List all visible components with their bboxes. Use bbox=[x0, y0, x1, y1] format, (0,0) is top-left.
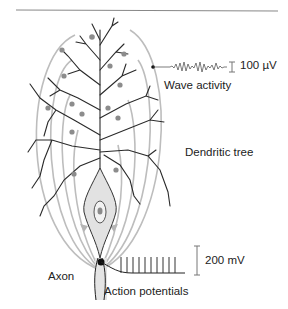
wave-scale-label: 100 µV bbox=[240, 59, 277, 71]
nucleolus bbox=[98, 208, 103, 215]
synapse-dots bbox=[45, 34, 126, 176]
action-potentials-label: Action potentials bbox=[104, 285, 188, 297]
wave-activity-label: Wave activity bbox=[164, 79, 231, 91]
top-rule bbox=[16, 10, 278, 11]
ap-scale-bar bbox=[194, 246, 200, 275]
ap-spikes bbox=[121, 257, 175, 273]
ap-baseline bbox=[101, 262, 185, 273]
ap-scale-label: 200 mV bbox=[205, 254, 245, 266]
dendritic-tree-label: Dendritic tree bbox=[185, 146, 253, 158]
wave-scale-bar bbox=[229, 62, 235, 72]
axon-label: Axon bbox=[48, 270, 74, 282]
wave-trace bbox=[153, 62, 227, 72]
